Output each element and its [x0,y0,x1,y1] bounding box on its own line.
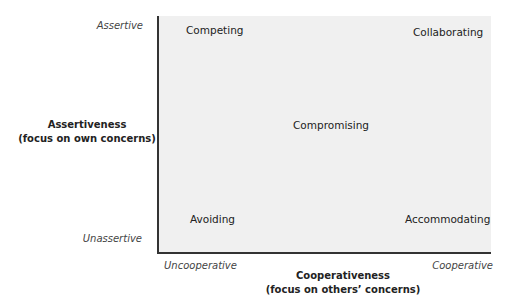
y-axis-title-line1: Assertiveness [12,118,162,132]
mode-accommodating: Accommodating [405,213,490,225]
y-axis-title-line2: (focus on own concerns) [12,132,162,146]
x-axis-title-line1: Cooperativeness [258,269,428,283]
x-axis-title: Cooperativeness (focus on others’ concer… [258,269,428,297]
y-axis-low-label: Unassertive [83,233,142,244]
x-axis-title-line2: (focus on others’ concerns) [258,283,428,297]
y-axis-title: Assertiveness (focus on own concerns) [12,118,162,146]
y-axis-high-label: Assertive [97,20,143,31]
mode-avoiding: Avoiding [190,213,235,225]
mode-collaborating: Collaborating [413,26,483,38]
mode-competing: Competing [186,24,243,36]
x-axis-low-label: Uncooperative [164,260,237,271]
mode-compromising: Compromising [293,119,369,131]
x-axis-high-label: Cooperative [432,260,493,271]
